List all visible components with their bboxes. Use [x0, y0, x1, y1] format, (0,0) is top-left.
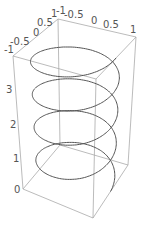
z-axis-tick-label: 2 [10, 119, 16, 130]
top-axis-tick-label: 0.5 [103, 19, 119, 30]
tick-labels: -1-0.500.51-1-0.500.513210 [4, 5, 136, 195]
z-axis-tick-label: 1 [13, 153, 19, 164]
bounding-box [13, 19, 136, 218]
front-axis-tick-label: 0 [33, 27, 39, 38]
front-axis-tick-label: -0.5 [10, 36, 30, 47]
z-axis-tick-label: 0 [14, 184, 20, 195]
z-axis-tick-label: 3 [6, 84, 12, 95]
top-axis-tick-label: -0.5 [64, 9, 84, 20]
helix-3d-plot: -1-0.500.51-1-0.500.513210 [0, 0, 146, 229]
top-axis-tick-label: 0 [91, 15, 97, 26]
top-axis-tick-label: 1 [130, 24, 136, 35]
